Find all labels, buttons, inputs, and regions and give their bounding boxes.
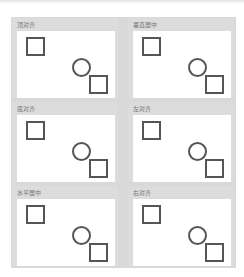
panel-label: 右对齐 — [133, 188, 151, 198]
square-shape — [26, 37, 45, 56]
square-shape — [89, 243, 108, 262]
panel-canvas — [133, 115, 231, 182]
square-shape — [26, 121, 45, 140]
panel-right-align[interactable]: 右对齐 — [128, 186, 234, 266]
square-shape — [205, 75, 224, 94]
panel-label: 水平居中 — [17, 188, 41, 198]
cut-off-header — [0, 0, 244, 4]
square-shape — [205, 159, 224, 178]
square-shape — [26, 205, 45, 224]
panel-label: 左对齐 — [133, 104, 151, 114]
panel-left-align[interactable]: 左对齐 — [128, 102, 234, 182]
panel-top-align[interactable]: 顶对齐 — [12, 18, 118, 98]
square-shape — [142, 205, 161, 224]
panel-horizontal-center[interactable]: 水平居中 — [12, 186, 118, 266]
panel-canvas — [17, 115, 115, 182]
panel-canvas — [17, 199, 115, 266]
panel-canvas — [133, 199, 231, 266]
panel-label: 底对齐 — [17, 104, 35, 114]
alignment-grid: 顶对齐 垂直居中 底对齐 左对齐 水平居中 — [11, 17, 236, 268]
panel-bottom-align[interactable]: 底对齐 — [12, 102, 118, 182]
square-shape — [205, 243, 224, 262]
square-shape — [89, 75, 108, 94]
square-shape — [142, 121, 161, 140]
panel-canvas — [133, 31, 231, 98]
panel-label: 垂直居中 — [133, 20, 157, 30]
panel-vertical-center[interactable]: 垂直居中 — [128, 18, 234, 98]
square-shape — [89, 159, 108, 178]
square-shape — [142, 37, 161, 56]
panel-canvas — [17, 31, 115, 98]
panel-label: 顶对齐 — [17, 20, 35, 30]
